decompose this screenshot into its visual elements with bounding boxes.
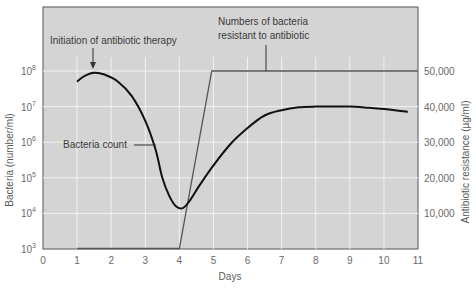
y-left-tick-label: 104: [21, 206, 36, 219]
x-tick-label: 2: [108, 255, 114, 266]
annotation-therapy: Initiation of antibiotic therapy: [50, 35, 177, 46]
x-tick-label: 1: [74, 255, 80, 266]
x-tick-label: 4: [177, 255, 183, 266]
y-left-tick-label: 105: [21, 171, 36, 184]
y-right-tick-label: 40,000: [424, 102, 455, 113]
x-tick-label: 3: [142, 255, 148, 266]
x-tick-label: 5: [211, 255, 217, 266]
y-right-tick-label: 20,000: [424, 173, 455, 184]
x-tick-label: 7: [279, 255, 285, 266]
y-left-tick-label: 107: [21, 100, 36, 113]
x-tick-label: 11: [413, 255, 424, 266]
annotation-resistance-2: resistant to antibiotic: [218, 30, 309, 41]
y-right-axis-ticks: 10,00020,00030,00040,00050,000: [424, 66, 455, 219]
y-left-axis-label: Bacteria (number/ml): [4, 113, 15, 206]
annotation-resistance-1: Numbers of bacteria: [218, 16, 308, 27]
y-right-tick-label: 50,000: [424, 66, 455, 77]
y-right-tick-label: 30,000: [424, 137, 455, 148]
x-tick-label: 8: [313, 255, 319, 266]
x-axis-ticks: 01234567891011: [40, 255, 423, 266]
y-left-axis-ticks: 103104105106107108: [21, 64, 36, 255]
chart: 01234567891011 103104105106107108 10,000…: [0, 0, 476, 289]
x-tick-label: 6: [245, 255, 251, 266]
y-right-axis-label: Antibiotic resistance (µg/ml): [460, 100, 471, 223]
y-left-tick-label: 106: [21, 135, 36, 148]
y-left-tick-label: 103: [21, 242, 36, 255]
x-tick-label: 0: [40, 255, 46, 266]
x-tick-label: 10: [378, 255, 390, 266]
x-tick-label: 9: [347, 255, 353, 266]
x-axis-label: Days: [219, 271, 242, 282]
y-left-tick-label: 108: [21, 64, 36, 77]
y-right-tick-label: 10,000: [424, 208, 455, 219]
annotation-bacteria-count: Bacteria count: [63, 139, 127, 150]
